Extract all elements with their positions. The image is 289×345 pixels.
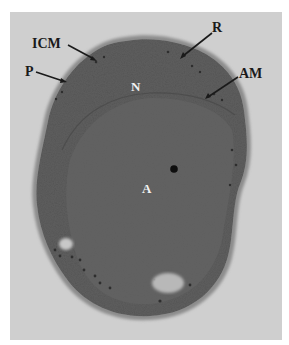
- label-icm: ICM: [32, 37, 61, 51]
- label-r: R: [212, 21, 222, 35]
- label-p: P: [25, 65, 34, 79]
- arrow-p: [36, 72, 63, 81]
- light-inclusion: [59, 238, 73, 250]
- label-am: AM: [239, 67, 262, 81]
- light-inclusion: [152, 273, 184, 293]
- cell-micrograph: [0, 0, 289, 345]
- label-n: N: [131, 80, 140, 94]
- label-a: A: [142, 182, 151, 196]
- dense-granule: [170, 165, 178, 173]
